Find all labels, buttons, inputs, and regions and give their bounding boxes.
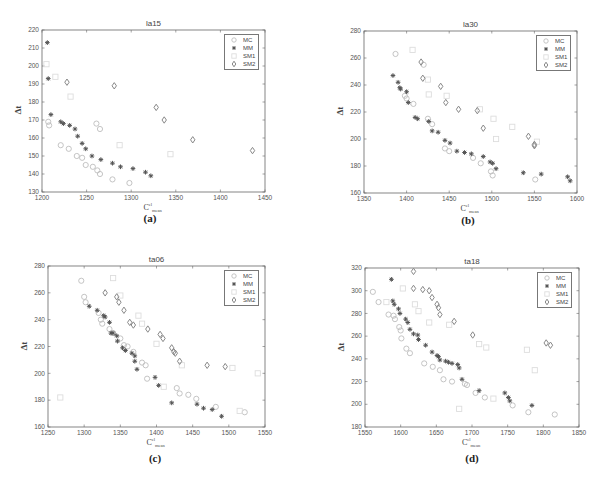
svg-text:1750: 1750	[500, 429, 515, 436]
y-axis-label: Δt	[336, 342, 346, 351]
legend-label: SM1	[556, 291, 568, 297]
legend: MCMMSM1SM2	[537, 272, 572, 308]
scatter-plot: 1550160016501700175018001850180200220240…	[0, 0, 604, 489]
diamond-marker-icon	[541, 298, 553, 306]
legend-label: MM	[556, 283, 566, 289]
legend-item-sm1: SM1	[541, 290, 568, 298]
svg-text:300: 300	[351, 287, 362, 294]
svg-text:1850: 1850	[572, 429, 587, 436]
legend-item-mm: MM	[541, 282, 568, 290]
legend-item-mc: MC	[541, 274, 568, 282]
svg-text:1650: 1650	[429, 429, 444, 436]
square-marker-icon	[541, 290, 553, 298]
svg-text:1800: 1800	[536, 429, 551, 436]
svg-text:320: 320	[351, 264, 362, 271]
legend-label: SM2	[556, 299, 568, 305]
svg-text:240: 240	[351, 355, 362, 362]
circle-marker-icon	[541, 274, 553, 282]
svg-text:180: 180	[351, 423, 362, 430]
svg-text:260: 260	[351, 332, 362, 339]
svg-text:1600: 1600	[393, 429, 408, 436]
legend-label: MC	[556, 275, 565, 281]
subfigure-caption: (d)	[452, 452, 492, 464]
legend-item-sm2: SM2	[541, 298, 568, 306]
asterisk-marker-icon	[541, 282, 553, 290]
svg-text:200: 200	[351, 400, 362, 407]
svg-text:280: 280	[351, 310, 362, 317]
svg-text:220: 220	[351, 378, 362, 385]
x-axis-label: Celmean	[462, 437, 480, 448]
svg-text:1700: 1700	[465, 429, 480, 436]
